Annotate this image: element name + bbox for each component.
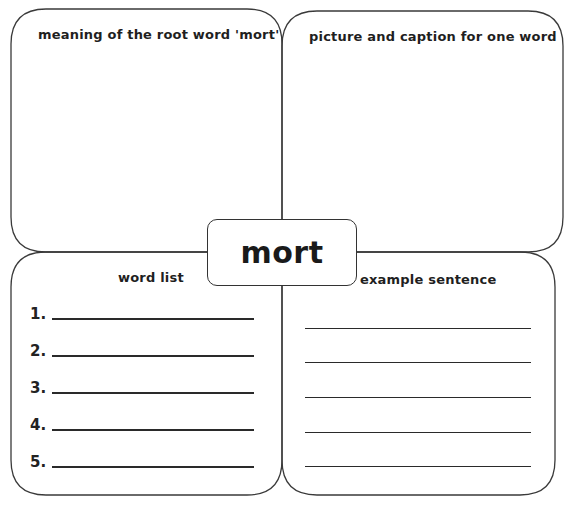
word-list-heading: word list <box>118 270 184 285</box>
word-list-number: 4. <box>30 416 52 434</box>
word-list-blank[interactable] <box>52 429 254 431</box>
bottom-right-box-outline <box>282 252 555 495</box>
example-sentence-line[interactable] <box>305 362 531 363</box>
word-list-number: 1. <box>30 305 52 323</box>
center-word-box: mort <box>207 219 357 286</box>
word-list-blank[interactable] <box>52 392 254 394</box>
word-list-item: 3. <box>30 379 254 397</box>
word-list-item: 4. <box>30 416 254 434</box>
meaning-quadrant[interactable] <box>11 9 282 252</box>
center-word: mort <box>240 235 323 270</box>
word-list-item: 5. <box>30 453 254 471</box>
word-list-number: 3. <box>30 379 52 397</box>
word-list-item: 2. <box>30 342 254 360</box>
example-sentence-heading: example sentence <box>360 272 496 287</box>
word-list-blank[interactable] <box>52 466 254 468</box>
word-list-blank[interactable] <box>52 318 254 320</box>
word-list-number: 5. <box>30 453 52 471</box>
example-sentence-line[interactable] <box>305 466 531 467</box>
picture-caption-heading: picture and caption for one word <box>309 29 557 44</box>
picture-caption-quadrant[interactable] <box>282 11 563 252</box>
word-list-number: 2. <box>30 342 52 360</box>
example-sentence-line[interactable] <box>305 432 531 433</box>
meaning-heading: meaning of the root word 'mort' <box>38 27 279 42</box>
word-list-blank[interactable] <box>52 355 254 357</box>
example-sentence-line[interactable] <box>305 397 531 398</box>
word-list-item: 1. <box>30 305 254 323</box>
example-sentence-line[interactable] <box>305 328 531 329</box>
